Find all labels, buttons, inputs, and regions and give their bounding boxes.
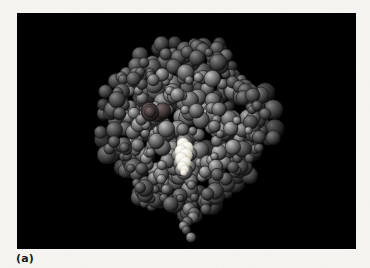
atom-sphere bbox=[94, 126, 107, 139]
atom-sphere bbox=[157, 160, 167, 170]
atom-sphere bbox=[144, 106, 155, 117]
atom-sphere bbox=[187, 181, 196, 190]
atom-sphere bbox=[147, 74, 159, 86]
atom-sphere bbox=[266, 131, 280, 145]
atom-sphere bbox=[254, 143, 263, 152]
atom-sphere bbox=[259, 108, 271, 120]
atom-sphere bbox=[225, 139, 241, 155]
atom-sphere bbox=[188, 127, 197, 136]
figure-root: (a) bbox=[0, 0, 370, 268]
atom-sphere bbox=[127, 164, 136, 173]
atom-sphere bbox=[212, 102, 226, 116]
figure-image-panel bbox=[17, 13, 356, 249]
atom-sphere bbox=[185, 76, 193, 84]
atom-sphere bbox=[194, 73, 204, 83]
atom-sphere bbox=[170, 88, 184, 102]
atom-sphere bbox=[163, 196, 178, 211]
atom-sphere bbox=[181, 105, 190, 114]
atom-sphere bbox=[160, 48, 172, 60]
atom-sphere bbox=[131, 139, 144, 152]
atom-sphere bbox=[126, 72, 140, 86]
atom-sphere bbox=[190, 193, 198, 201]
atom-sphere bbox=[135, 182, 146, 193]
atom-sphere bbox=[139, 58, 149, 68]
figure-caption-label: (a) bbox=[16, 252, 34, 265]
atom-sphere bbox=[161, 185, 171, 195]
atom-sphere bbox=[245, 154, 255, 164]
atom-sphere bbox=[210, 54, 227, 71]
atom-sphere bbox=[245, 88, 260, 103]
atom-sphere bbox=[177, 123, 189, 135]
atom-sphere bbox=[136, 163, 148, 175]
space-filling-molecule-render bbox=[17, 13, 356, 249]
ligand-atom-sphere bbox=[180, 169, 186, 175]
atom-sphere bbox=[109, 92, 126, 109]
atom-sphere bbox=[189, 103, 204, 118]
atom-sphere bbox=[158, 121, 175, 138]
atom-sphere bbox=[211, 168, 223, 180]
atom-sphere bbox=[233, 117, 241, 125]
atom-sphere bbox=[252, 101, 262, 111]
atom-sphere bbox=[208, 120, 220, 132]
atom-sphere bbox=[200, 204, 211, 215]
atom-sphere bbox=[108, 136, 120, 148]
atom-sphere bbox=[252, 130, 265, 143]
atom-sphere bbox=[113, 107, 125, 119]
atom-sphere bbox=[120, 143, 130, 153]
atom-sphere bbox=[189, 50, 205, 66]
atom-sphere bbox=[157, 174, 167, 184]
atom-sphere bbox=[245, 127, 253, 135]
atom-sphere bbox=[205, 48, 213, 56]
atom-sphere bbox=[227, 161, 239, 173]
atom-sphere bbox=[204, 70, 221, 87]
atom-sphere bbox=[186, 232, 196, 242]
atom-sphere bbox=[201, 188, 214, 201]
